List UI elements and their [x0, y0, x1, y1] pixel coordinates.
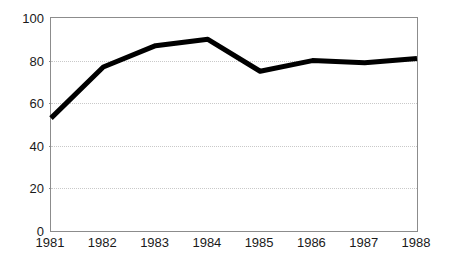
x-tick-label-1984: 1984 [192, 236, 221, 249]
x-tick-label-1985: 1985 [245, 236, 274, 249]
x-tick-label-1986: 1986 [297, 236, 326, 249]
series-line [51, 18, 417, 231]
x-tick-label-1983: 1983 [140, 236, 169, 249]
y-tick-label-40: 40 [0, 139, 44, 152]
x-tick-label-1988: 1988 [402, 236, 431, 249]
y-tick-label-80: 80 [0, 54, 44, 67]
series-polyline [51, 39, 417, 118]
x-tick-label-1987: 1987 [349, 236, 378, 249]
line-chart: 020406080100 198119821983198419851986198… [0, 0, 450, 270]
y-tick-label-100: 100 [0, 12, 44, 25]
x-tick-label-1981: 1981 [36, 236, 65, 249]
y-tick-label-60: 60 [0, 97, 44, 110]
y-tick-label-20: 20 [0, 182, 44, 195]
y-axis-tick-labels: 020406080100 [0, 17, 44, 232]
x-axis-tick-labels: 19811982198319841985198619871988 [50, 236, 418, 256]
plot-area [50, 17, 418, 232]
x-tick-label-1982: 1982 [88, 236, 117, 249]
